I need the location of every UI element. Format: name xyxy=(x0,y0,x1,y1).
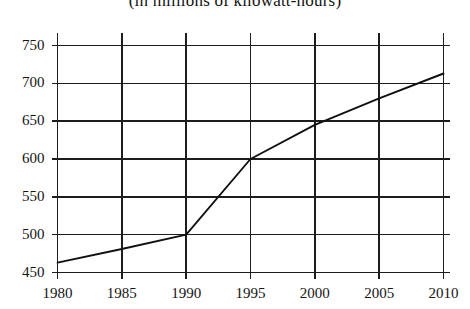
y-tick-label-600: 600 xyxy=(1,151,45,166)
y-tick-label-750: 750 xyxy=(1,38,45,53)
x-tick-label-2005: 2005 xyxy=(351,286,407,301)
y-tick-label-650: 650 xyxy=(1,113,45,128)
x-tick-label-2000: 2000 xyxy=(287,286,343,301)
y-tick-label-500: 500 xyxy=(1,227,45,242)
y-tick-label-700: 700 xyxy=(1,75,45,90)
x-tick-label-1985: 1985 xyxy=(94,286,150,301)
grid-lines xyxy=(52,33,450,279)
x-tick-label-1995: 1995 xyxy=(223,286,279,301)
x-tick-label-2010: 2010 xyxy=(416,286,470,301)
y-tick-label-550: 550 xyxy=(1,189,45,204)
line-chart-plot xyxy=(0,0,470,309)
chart-figure: (in millions of kilowatt-hours) 45050055… xyxy=(0,0,470,309)
x-tick-label-1990: 1990 xyxy=(158,286,214,301)
y-tick-label-450: 450 xyxy=(1,265,45,280)
x-tick-label-1980: 1980 xyxy=(30,286,86,301)
